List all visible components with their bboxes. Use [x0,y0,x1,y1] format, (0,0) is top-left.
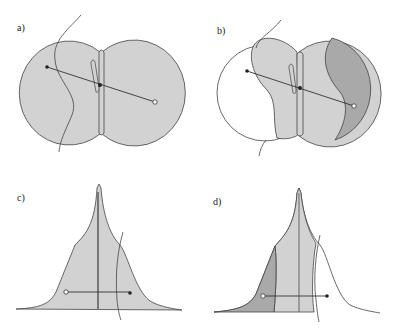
panel-b-cells [217,20,381,156]
panel-a-cells [19,15,185,152]
panel-d-profile [214,188,380,322]
panel-c-profile [16,184,182,320]
diagram-canvas [0,0,394,330]
